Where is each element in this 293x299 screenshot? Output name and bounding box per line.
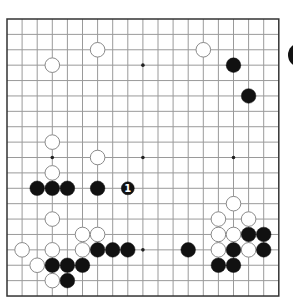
black-stone — [241, 227, 256, 242]
white-stone — [75, 227, 90, 242]
star-point — [232, 156, 236, 160]
black-stone — [256, 243, 271, 258]
black-stone — [181, 243, 196, 258]
white-stone — [241, 243, 256, 258]
white-stone — [15, 243, 30, 258]
white-stone — [45, 212, 60, 227]
star-point — [141, 156, 145, 160]
star-point — [141, 248, 145, 252]
black-stone — [226, 258, 241, 273]
white-stone — [211, 243, 226, 258]
black-stone — [75, 258, 90, 273]
move-markers: 1 — [121, 182, 134, 195]
white-stone — [45, 58, 60, 73]
white-stone — [90, 227, 105, 242]
black-stone — [90, 243, 105, 258]
black-stone — [226, 58, 241, 73]
black-stone — [45, 258, 60, 273]
white-stone — [241, 212, 256, 227]
white-stone — [90, 42, 105, 57]
white-stone — [45, 273, 60, 288]
white-stone — [226, 196, 241, 211]
black-stone — [121, 243, 136, 258]
black-stone — [60, 258, 75, 273]
to-play-indicator-icon — [288, 43, 293, 67]
black-stone — [30, 181, 45, 196]
black-stone — [45, 181, 60, 196]
black-stone — [211, 258, 226, 273]
white-stone — [90, 150, 105, 165]
black-stone — [226, 243, 241, 258]
white-stone — [211, 212, 226, 227]
star-point — [51, 156, 55, 160]
go-board[interactable]: 1 — [0, 0, 293, 299]
move-number-label: 1 — [124, 183, 131, 194]
white-stone — [196, 42, 211, 57]
white-stone — [45, 243, 60, 258]
black-stone — [256, 227, 271, 242]
black-stone — [105, 243, 120, 258]
black-stone — [241, 89, 256, 104]
black-stone — [60, 181, 75, 196]
white-stone — [75, 243, 90, 258]
white-stone — [45, 166, 60, 181]
black-stone — [90, 181, 105, 196]
black-stone — [60, 273, 75, 288]
white-stone — [226, 227, 241, 242]
white-stone — [211, 227, 226, 242]
star-point — [141, 63, 145, 67]
white-stone — [30, 258, 45, 273]
white-stone — [45, 135, 60, 150]
